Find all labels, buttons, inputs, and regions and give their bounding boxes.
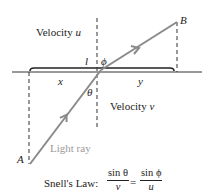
refraction-diagram [0,0,212,196]
fraction-left-numerator: sin θ [107,168,129,181]
fraction-right-numerator: sin ϕ [140,168,162,181]
angle-theta-label: θ [87,87,92,98]
segment-x-label: x [58,76,63,87]
light-ray-label: Light ray [50,143,91,154]
fraction-left: sin θ v [107,168,129,192]
fraction-left-denominator: v [107,181,129,193]
fraction-right-denominator: u [140,181,162,193]
point-b-label: B [180,15,187,26]
equals-sign: = [130,177,136,188]
velocity-upper-label: Velocity u [36,27,81,38]
segment-l-label: l [85,56,88,67]
point-a-label: A [17,154,24,165]
fraction-right: sin ϕ u [140,168,162,192]
ray-upper [101,22,177,70]
velocity-lower-label: Velocity v [110,101,154,112]
angle-phi-label: ϕ [101,56,107,67]
segment-y-label: y [138,76,143,87]
snells-law-label: Snell's Law: [44,178,98,189]
